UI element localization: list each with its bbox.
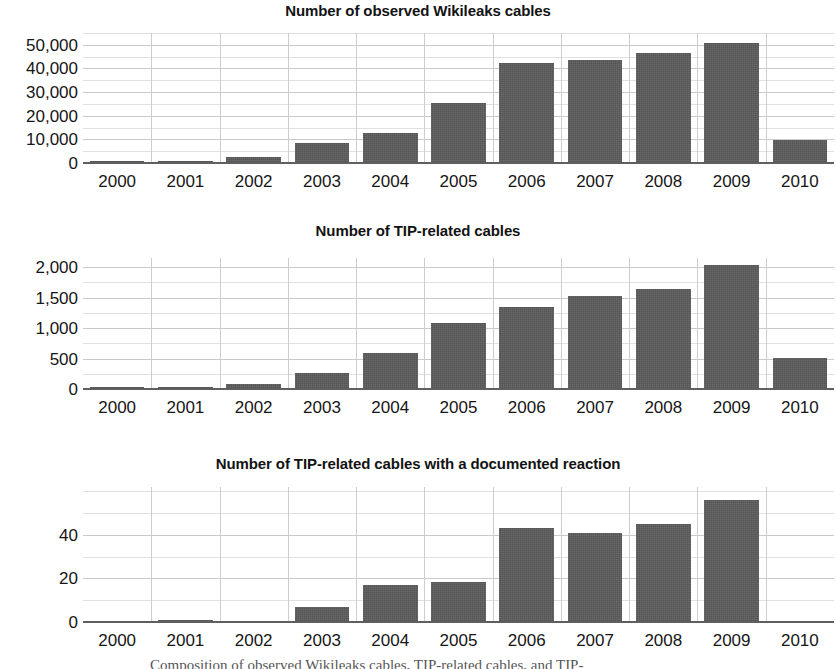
x-axis-tick-label: 2003: [288, 172, 356, 192]
y-axis-tick-label: 30,000: [26, 92, 78, 109]
chart-title: Number of TIP-related cables: [0, 222, 836, 239]
bar: [431, 323, 486, 389]
x-axis-tick-label: 2009: [697, 631, 765, 651]
x-axis-tick-label: 2005: [424, 631, 492, 651]
y-axis-ticks: 010,00020,00030,00040,00050,000: [0, 33, 78, 163]
x-axis-line: [83, 162, 834, 164]
x-axis-tick-label: 2006: [493, 631, 561, 651]
bar: [363, 353, 418, 389]
bar: [499, 307, 554, 389]
bar: [704, 500, 759, 622]
plot-area: [83, 33, 834, 163]
bar: [431, 103, 486, 163]
x-axis-tick-label: 2006: [493, 398, 561, 418]
y-axis-ticks: 05001,0001,5002,000: [0, 258, 78, 389]
x-axis-tick-label: 2010: [766, 172, 834, 192]
bar: [295, 607, 350, 622]
y-axis-tick-label: 2,000: [35, 267, 78, 284]
plot-area: [83, 487, 834, 622]
x-axis-tick-label: 2002: [220, 398, 288, 418]
x-axis-tick-label: 2007: [561, 398, 629, 418]
x-axis-tick-label: 2008: [629, 631, 697, 651]
bar: [363, 585, 418, 622]
chart-title: Number of observed Wikileaks cables: [0, 2, 836, 19]
bar: [499, 63, 554, 163]
x-axis-tick-label: 2007: [561, 172, 629, 192]
x-axis-tick-label: 2010: [766, 631, 834, 651]
bar: [773, 358, 828, 389]
y-axis-tick-label: 40: [59, 535, 78, 552]
bar: [568, 60, 623, 163]
chart-panel-observed-cables: Number of observed Wikileaks cables 010,…: [0, 0, 836, 210]
chart-title: Number of TIP-related cables with a docu…: [0, 455, 836, 472]
figure-wikileaks-tip-cables: Number of observed Wikileaks cables 010,…: [0, 0, 836, 669]
x-axis-tick-label: 2002: [220, 631, 288, 651]
bar: [431, 582, 486, 622]
y-axis-tick-label: 0: [69, 163, 78, 180]
x-axis-tick-label: 2008: [629, 398, 697, 418]
chart-panel-tip-cables-reaction: Number of TIP-related cables with a docu…: [0, 455, 836, 669]
x-axis-tick-label: 2007: [561, 631, 629, 651]
bar-series: [83, 33, 834, 163]
plot-area: [83, 258, 834, 389]
y-axis-tick-label: 20,000: [26, 116, 78, 133]
y-axis-tick-label: 10,000: [26, 139, 78, 156]
y-axis-tick-label: 40,000: [26, 68, 78, 85]
bar: [636, 289, 691, 389]
y-axis-tick-label: 1,000: [35, 328, 78, 345]
x-axis-tick-label: 2001: [151, 172, 219, 192]
x-axis-tick-label: 2009: [697, 172, 765, 192]
figure-caption: Composition of observed Wikileaks cables…: [150, 657, 830, 669]
x-axis-tick-label: 2005: [424, 172, 492, 192]
bar: [568, 533, 623, 622]
y-axis-tick-label: 0: [69, 622, 78, 639]
bar: [295, 373, 350, 389]
bar: [363, 133, 418, 163]
x-axis-tick-label: 2000: [83, 631, 151, 651]
x-axis-tick-label: 2008: [629, 172, 697, 192]
x-axis-tick-label: 2001: [151, 398, 219, 418]
bar: [704, 43, 759, 163]
bar-series: [83, 487, 834, 622]
bar: [499, 528, 554, 622]
x-axis-tick-label: 2001: [151, 631, 219, 651]
x-axis-tick-label: 2002: [220, 172, 288, 192]
x-axis-tick-label: 2004: [356, 398, 424, 418]
x-axis-tick-label: 2003: [288, 398, 356, 418]
y-axis-tick-label: 1,500: [35, 298, 78, 315]
y-axis-tick-label: 50,000: [26, 45, 78, 62]
chart-panel-tip-cables: Number of TIP-related cables 05001,0001,…: [0, 218, 836, 440]
bar-series: [83, 258, 834, 389]
x-axis-tick-label: 2004: [356, 631, 424, 651]
bar: [295, 143, 350, 163]
y-axis-tick-label: 20: [59, 578, 78, 595]
x-axis-line: [83, 621, 834, 623]
y-axis-ticks: 02040: [0, 487, 78, 622]
x-axis-tick-label: 2010: [766, 398, 834, 418]
x-axis-tick-label: 2006: [493, 172, 561, 192]
x-axis-tick-label: 2005: [424, 398, 492, 418]
bar: [704, 265, 759, 389]
x-axis-tick-label: 2000: [83, 398, 151, 418]
x-axis-tick-label: 2004: [356, 172, 424, 192]
bar: [636, 524, 691, 622]
bar: [636, 53, 691, 163]
bar: [568, 296, 623, 389]
x-axis-line: [83, 388, 834, 390]
x-axis-tick-label: 2009: [697, 398, 765, 418]
y-axis-tick-label: 500: [50, 359, 78, 376]
x-axis-tick-label: 2003: [288, 631, 356, 651]
bar: [773, 140, 828, 163]
y-axis-tick-label: 0: [69, 389, 78, 406]
x-axis-tick-label: 2000: [83, 172, 151, 192]
